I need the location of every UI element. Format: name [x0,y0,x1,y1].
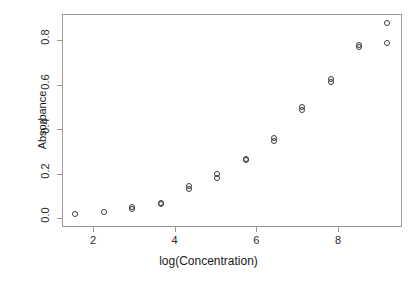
x-tick-label: 8 [335,234,341,246]
y-axis-label: Absorbance [13,0,72,240]
x-axis-label: log(Concentration) [0,254,417,268]
x-tick-label: 6 [253,234,259,246]
plot-area-border [62,14,402,227]
x-tick-mark [93,227,94,232]
y-axis-label-text: Absorbance [36,91,48,150]
x-tick-label: 2 [90,234,96,246]
x-tick-mark [338,227,339,232]
x-tick-mark [175,227,176,232]
x-tick-label: 4 [172,234,178,246]
x-tick-mark [256,227,257,232]
scatter-plot-figure: 2468 0.00.20.40.60.8 log(Concentration) … [0,0,417,290]
